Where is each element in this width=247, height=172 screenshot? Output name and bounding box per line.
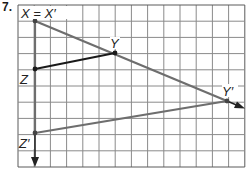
label-yprime: Y′ [222, 84, 234, 99]
point-zprime [33, 131, 38, 136]
point-y [113, 51, 118, 56]
label-zprime: Z′ [18, 136, 30, 151]
label-y: Y [110, 36, 120, 51]
label-x-xprime: X = X′ [20, 6, 56, 21]
arrowhead-down-icon [31, 157, 39, 167]
point-z [33, 67, 38, 72]
grid [18, 5, 245, 167]
segment-z-y [35, 53, 115, 69]
dilation-diagram: X = X′ Y Z Y′ Z′ [0, 0, 247, 172]
point-yprime [225, 99, 230, 104]
label-z: Z [19, 72, 29, 87]
